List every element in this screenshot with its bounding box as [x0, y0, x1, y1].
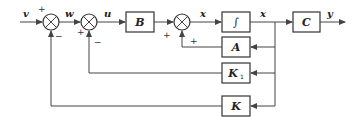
sum1-minus-sign: −	[55, 31, 63, 41]
block-diagram: v + − w + − u B + + x ∫ x	[0, 0, 363, 130]
signal-y-label: y	[326, 8, 334, 19]
sum3-plus-sign-bottom: +	[190, 36, 198, 46]
signal-x-label: x	[259, 8, 267, 19]
summing-junction-1	[43, 14, 59, 30]
block-K: K	[222, 96, 250, 116]
signal-w-label: w	[65, 8, 74, 19]
block-A: A	[222, 37, 250, 57]
block-B-label: B	[134, 16, 144, 29]
block-C-label: C	[302, 16, 311, 29]
signal-v-label: v	[23, 8, 29, 19]
block-K1-subscript: 1	[240, 73, 244, 80]
signal-xdot-label: x	[199, 8, 207, 19]
signal-u-label: u	[104, 8, 111, 19]
A-to-sum3-wire	[182, 31, 222, 47]
sum1-plus-sign: +	[38, 4, 46, 14]
sum2-minus-sign: −	[94, 37, 102, 47]
block-A-label: A	[231, 41, 241, 54]
block-K1-label: K	[227, 67, 238, 80]
summing-junction-3	[174, 14, 190, 30]
block-B: B	[126, 12, 154, 32]
integrator-label: ∫	[233, 16, 239, 29]
block-K1: K 1	[222, 63, 250, 83]
block-integrator: ∫	[222, 12, 250, 32]
block-K-label: K	[230, 100, 241, 113]
block-C: C	[293, 12, 320, 32]
K1-to-sum2-wire	[89, 31, 222, 73]
sum3-plus-sign-left: +	[163, 30, 171, 40]
sum2-plus-sign: +	[77, 27, 85, 37]
